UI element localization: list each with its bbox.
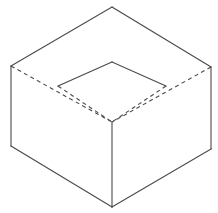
isometric-cube-figure: Isometric cube with square recess Line d… [0,0,218,213]
